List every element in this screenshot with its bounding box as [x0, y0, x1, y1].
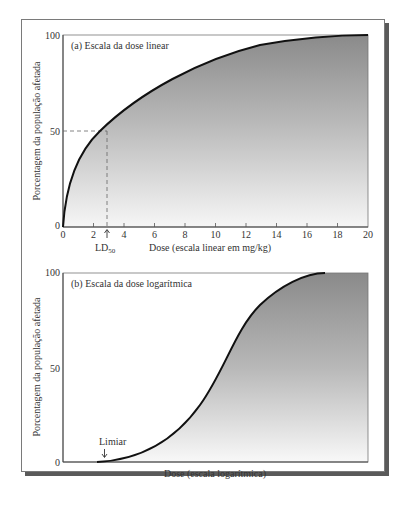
chart-a-x-tick-label: 12 — [241, 229, 251, 240]
ld50-arrow-icon — [105, 230, 110, 239]
chart-b-y-tick-label: 0 — [55, 457, 60, 468]
chart-b-y-label: Porcentagem da população afetada — [31, 297, 42, 437]
chart-a-x-tick-label: 10 — [211, 229, 221, 240]
chart-b-y-tick-label: 100 — [45, 267, 60, 278]
chart-b-y-tick-label: 50 — [50, 363, 60, 374]
threshold-arrow-icon — [102, 449, 107, 458]
chart-a-y-tick-label: 50 — [50, 126, 60, 137]
chart-a-x-tick-label: 18 — [333, 229, 343, 240]
chart-a-x-tick-label: 14 — [272, 229, 282, 240]
chart-a-x-label: Dose (escala linear em mg/kg) — [149, 242, 271, 254]
chart-a-area-fill — [63, 35, 368, 227]
chart-a-x-tick-label: 6 — [152, 229, 157, 240]
chart-a-x-tick-label: 16 — [302, 229, 312, 240]
chart-b-title: (b) Escala da dose logarítmica — [71, 278, 193, 290]
chart-a-x-tick-label: 4 — [122, 229, 127, 240]
chart-b-x-label: Dose (escala logarítmica) — [164, 468, 266, 480]
chart-a: 0 2 4 6 8 10 12 14 16 18 20 LD50 Dose (e… — [31, 30, 373, 255]
chart-a-y-label: Porcentagem da população afetada — [31, 61, 42, 201]
chart-b: Limiar 100 50 0 Porcentagem da população… — [31, 267, 368, 480]
chart-a-title: (a) Escala da dose linear — [71, 40, 169, 52]
chart-b-area-fill — [97, 273, 368, 462]
threshold-label: Limiar — [99, 436, 127, 447]
chart-a-y-tick-label: 0 — [55, 220, 60, 231]
chart-a-x-tick-label: 8 — [183, 229, 188, 240]
ld50-label: LD50 — [95, 242, 116, 255]
chart-a-x-tick-label: 20 — [363, 229, 373, 240]
chart-a-x-tick-label: 0 — [61, 229, 66, 240]
chart-a-y-tick-label: 100 — [45, 30, 60, 41]
figure-canvas: 0 2 4 6 8 10 12 14 16 18 20 LD50 Dose (e… — [0, 0, 406, 507]
chart-a-x-tick-label: 2 — [91, 229, 96, 240]
